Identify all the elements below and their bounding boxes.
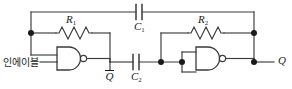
- gate2-invert-bubble: [219, 55, 225, 61]
- junction-dot-output: [251, 59, 257, 65]
- junction-dot-gate2-input: [179, 59, 185, 65]
- label-r2: R2: [198, 13, 208, 26]
- label-q-output: Q: [278, 54, 286, 66]
- label-q-bar: Q: [105, 70, 114, 83]
- junction-dot-right-top: [251, 30, 257, 36]
- r1-zigzag: [56, 27, 92, 39]
- r2-zigzag: [188, 27, 224, 39]
- label-r1: R1: [66, 13, 76, 26]
- gate1-body: [57, 47, 81, 70]
- gate1-invert-bubble: [80, 55, 86, 61]
- junction-dot-c2-right: [158, 59, 164, 65]
- label-enable-input: 인에이블: [3, 54, 39, 69]
- label-c1: C1: [134, 20, 145, 33]
- circuit-diagram: 인에이블 R1 R2 C1 C2 Q Q: [0, 0, 292, 89]
- gate2-body: [196, 47, 220, 70]
- schematic-svg: [0, 0, 292, 89]
- junction-dot-left: [28, 30, 34, 36]
- label-c2: C2: [131, 70, 142, 83]
